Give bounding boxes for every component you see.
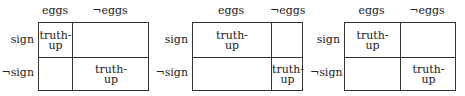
cell-not-sign-not-eggs: truth-up (401, 65, 456, 85)
grid: truth-up truth-up (192, 22, 303, 91)
panel-1: eggs ¬eggs sign ¬sign truth-up truth-up (0, 0, 155, 96)
col-label-not-eggs: ¬eggs (399, 4, 455, 17)
row-label-sign: sign (310, 33, 340, 46)
row-label-not-sign: ¬sign (310, 66, 340, 79)
col-label-not-eggs: ¬eggs (270, 4, 304, 17)
row-label-not-sign: ¬sign (155, 66, 188, 79)
grid: truth-up truth-up (344, 22, 456, 91)
grid: truth-up truth-up (38, 22, 149, 91)
cell-not-sign-not-eggs: truth-up (272, 65, 303, 85)
col-label-eggs: eggs (192, 4, 270, 17)
row-label-sign: sign (0, 33, 34, 46)
col-label-eggs: eggs (344, 4, 399, 17)
cell-sign-eggs: truth-up (39, 31, 72, 51)
row-label-sign: sign (155, 33, 188, 46)
panel-2: eggs ¬eggs sign ¬sign truth-up truth-up (155, 0, 310, 96)
col-label-not-eggs: ¬eggs (72, 4, 148, 17)
panel-3: eggs ¬eggs sign ¬sign truth-up truth-up (310, 0, 465, 96)
cell-not-sign-not-eggs: truth-up (73, 65, 149, 85)
divider-horizontal (345, 57, 455, 58)
cell-sign-eggs: truth-up (345, 31, 400, 51)
divider-horizontal (39, 57, 148, 58)
divider-horizontal (193, 57, 302, 58)
col-label-eggs: eggs (38, 4, 72, 17)
cell-sign-eggs: truth-up (193, 31, 271, 51)
row-label-not-sign: ¬sign (0, 66, 34, 79)
